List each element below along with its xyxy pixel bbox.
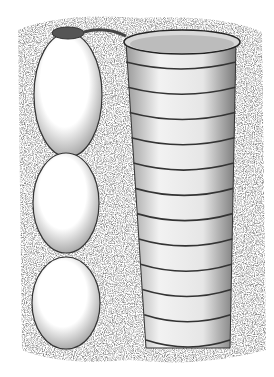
cell-opening (52, 27, 84, 39)
cell-column (32, 27, 102, 349)
cell-top (34, 33, 102, 157)
cell-middle (33, 153, 99, 253)
cell-bottom (32, 257, 100, 349)
stipple-illustration (0, 0, 274, 377)
